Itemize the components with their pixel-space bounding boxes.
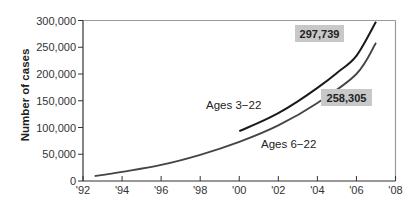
y-axis-title: Number of cases	[19, 49, 31, 142]
svg-text:258,305: 258,305	[327, 92, 367, 104]
x-tick-label: '96	[154, 184, 168, 196]
x-tick-label: '92	[76, 184, 90, 196]
series-label-ages-6-22: Ages 6−22	[261, 138, 316, 150]
x-tick-label: '06	[349, 184, 363, 196]
svg-text:297,739: 297,739	[300, 28, 340, 40]
x-tick-label: '08	[388, 184, 402, 196]
x-axis: '92'94'96'98'00'02'04'06'08	[76, 176, 403, 196]
y-tick-label: 100,000	[36, 122, 76, 134]
x-tick-label: '94	[115, 184, 129, 196]
x-tick-label: '02	[271, 184, 285, 196]
y-tick-label: 50,000	[42, 148, 76, 160]
y-tick-label: 300,000	[36, 15, 76, 27]
x-tick-label: '98	[193, 184, 207, 196]
x-tick-label: '04	[310, 184, 324, 196]
x-tick-label: '00	[232, 184, 246, 196]
y-axis: 050,000100,000150,000200,000250,000300,0…	[36, 15, 83, 188]
line-chart: 050,000100,000150,000200,000250,000300,0…	[0, 0, 418, 210]
value-callout-ages-3-22: 297,739	[295, 25, 344, 42]
y-tick-label: 150,000	[36, 95, 76, 107]
y-tick-label: 250,000	[36, 41, 76, 53]
value-callout-ages-6-22: 258,305	[321, 89, 372, 106]
series-label-ages-3-22: Ages 3−22	[206, 99, 261, 111]
y-tick-label: 200,000	[36, 68, 76, 80]
